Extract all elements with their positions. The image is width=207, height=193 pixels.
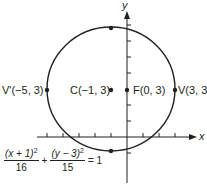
point-v-prime <box>45 88 49 92</box>
label-v: V(3, 3) <box>178 85 207 96</box>
equation-term-1: (x + 1)2 16 <box>4 148 39 173</box>
ellipse-equation: (x + 1)2 16 + (y − 3)2 15 = 1 <box>4 148 102 173</box>
label-c: C(−1, 3) <box>70 85 110 96</box>
equation-rhs: = 1 <box>88 155 102 166</box>
label-f: F(0, 3) <box>133 85 165 96</box>
point-top <box>109 26 113 30</box>
x-axis-label: x <box>199 131 205 142</box>
label-v-prime: V'(−5, 3) <box>2 85 44 96</box>
y-axis-arrow-icon <box>124 11 130 19</box>
equation-term-2: (y − 3)2 15 <box>50 148 85 173</box>
equation-plus: + <box>42 155 48 166</box>
point-v <box>173 88 177 92</box>
point-f <box>125 88 129 92</box>
point-bottom <box>109 149 113 153</box>
x-axis-arrow-icon <box>189 134 197 140</box>
y-axis-label: y <box>122 0 128 11</box>
